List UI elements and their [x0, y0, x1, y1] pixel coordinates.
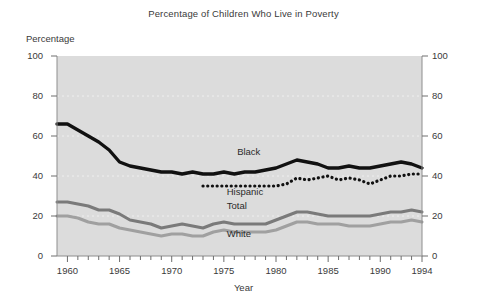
y-axis-label: Percentage — [26, 33, 75, 44]
ytick-label-right-100: 100 — [432, 50, 462, 61]
xtick-label-1965: 1965 — [100, 265, 140, 276]
xtick-label-1980: 1980 — [256, 265, 296, 276]
series-label-black: Black — [237, 146, 260, 157]
ytick-label-right-0: 0 — [432, 250, 462, 261]
ytick-label-left-100: 100 — [19, 50, 43, 61]
xtick-label-1994: 1994 — [402, 265, 442, 276]
ytick-label-left-20: 20 — [19, 210, 43, 221]
xtick-label-1960: 1960 — [47, 265, 87, 276]
ytick-label-left-40: 40 — [19, 170, 43, 181]
ytick-label-left-80: 80 — [19, 90, 43, 101]
ytick-label-left-60: 60 — [19, 130, 43, 141]
xtick-label-1990: 1990 — [360, 265, 400, 276]
ytick-label-right-60: 60 — [432, 130, 462, 141]
ytick-label-left-0: 0 — [19, 250, 43, 261]
series-label-hispanic: Hispanic — [227, 186, 263, 197]
chart-figure: Percentage of Children Who Live in Pover… — [0, 0, 487, 298]
ytick-label-right-80: 80 — [432, 90, 462, 101]
x-axis-label: Year — [0, 282, 487, 293]
ytick-label-right-40: 40 — [432, 170, 462, 181]
xtick-label-1970: 1970 — [152, 265, 192, 276]
series-label-total: Total — [227, 200, 247, 211]
series-label-white: White — [227, 228, 251, 239]
xtick-label-1975: 1975 — [204, 265, 244, 276]
ytick-label-right-20: 20 — [432, 210, 462, 221]
xtick-label-1985: 1985 — [308, 265, 348, 276]
chart-title: Percentage of Children Who Live in Pover… — [0, 8, 487, 19]
